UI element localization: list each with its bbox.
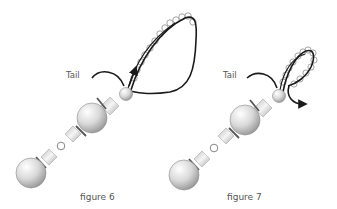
thread-arrow — [129, 70, 135, 86]
figure-caption: figure 6 — [80, 192, 115, 202]
small-round-bead — [273, 90, 286, 103]
bicone-bead — [41, 149, 57, 165]
figure-7: Tail figure 7 — [169, 47, 317, 202]
large-round-bead — [230, 105, 260, 135]
tail-label: Tail — [65, 70, 80, 80]
thread-tail — [92, 72, 124, 86]
seed-bead — [57, 142, 65, 150]
large-round-bead — [16, 158, 46, 188]
thread-exit-arrow — [288, 86, 303, 104]
tail-label: Tail — [222, 70, 237, 80]
beading-diagram: Tail figure 6 — [0, 0, 337, 209]
bicone-bead — [194, 151, 210, 167]
figure-caption: figure 7 — [227, 192, 262, 202]
small-round-bead — [120, 88, 133, 101]
large-round-bead — [169, 160, 199, 190]
seed-bead — [210, 144, 218, 152]
seed-bead-loop — [131, 13, 196, 81]
thread-tail — [247, 73, 277, 88]
large-round-bead — [77, 103, 107, 133]
